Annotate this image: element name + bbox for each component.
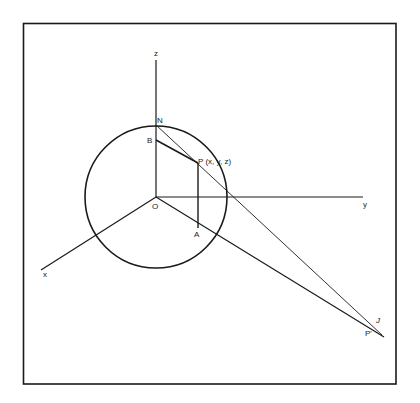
x-axis-label: x <box>43 270 47 279</box>
line-b-to-p <box>156 140 198 163</box>
tick-mark-label: J <box>375 316 381 325</box>
y-axis-label: y <box>363 200 367 209</box>
label-p-prime: P' <box>365 329 372 338</box>
label-a: A <box>194 230 200 239</box>
line-o-to-p-prime <box>156 197 384 337</box>
ray-n-through-p <box>156 125 382 335</box>
label-b: B <box>147 136 152 145</box>
stereographic-projection-diagram: z y x N B P (x, y, z) O A P' J <box>0 0 420 403</box>
x-axis <box>41 197 156 270</box>
figure-frame <box>24 24 397 385</box>
label-o: O <box>152 202 158 211</box>
label-n: N <box>157 116 163 125</box>
z-axis-label: z <box>154 49 158 58</box>
label-p: P (x, y, z) <box>198 157 231 166</box>
